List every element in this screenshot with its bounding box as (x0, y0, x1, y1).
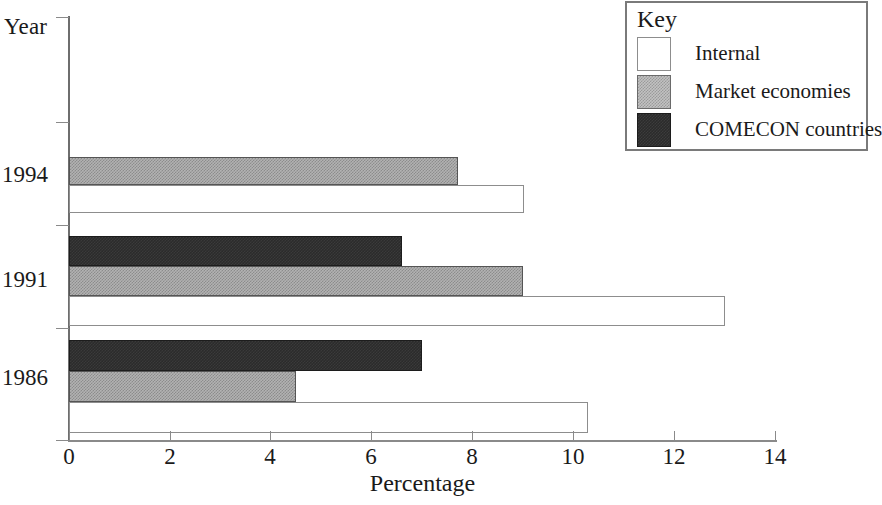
x-axis-label-14: 14 (753, 444, 797, 470)
x-axis-tick (674, 431, 675, 442)
x-axis-label-12: 12 (652, 444, 696, 470)
legend-swatch-comecon-countries-icon (637, 113, 671, 147)
x-axis-line (68, 440, 777, 442)
bar-1994-market-economies (69, 157, 458, 185)
y-axis-tick (56, 17, 69, 18)
legend-label-market-economies: Market economies (695, 78, 851, 104)
x-axis-tick (371, 431, 372, 442)
x-axis-label-8: 8 (450, 444, 494, 470)
x-axis-title: Percentage (68, 470, 777, 497)
legend-title: Key (637, 5, 677, 33)
legend-label-internal: Internal (695, 40, 760, 66)
bar-1991-internal (69, 296, 725, 326)
x-axis-label-4: 4 (248, 444, 292, 470)
x-axis-label-10: 10 (551, 444, 595, 470)
legend-label-comecon-countries: COMECON countries (695, 116, 882, 142)
bar-1986-market-economies (69, 371, 296, 402)
y-axis-tick (56, 225, 69, 226)
y-axis-tick (56, 122, 69, 123)
bar-1986-internal (69, 402, 588, 433)
bar-1991-comecon-countries (69, 236, 402, 266)
legend-swatch-internal-icon (637, 37, 671, 71)
legend: Key Internal Market economies COMECON co… (625, 1, 868, 151)
y-axis-label-1991: 1991 (2, 268, 60, 291)
x-axis-label-2: 2 (148, 444, 192, 470)
x-axis-tick (472, 431, 473, 442)
x-axis-tick (775, 431, 776, 442)
x-axis-tick (170, 431, 171, 442)
y-axis-tick (56, 328, 69, 329)
bar-1991-market-economies (69, 266, 523, 296)
legend-swatch-market-economies-icon (637, 75, 671, 109)
y-axis-tick (56, 440, 69, 441)
y-axis-label-1986: 1986 (2, 366, 60, 389)
x-axis-label-0: 0 (47, 444, 91, 470)
bar-1994-internal (69, 185, 524, 213)
y-axis-label-1994: 1994 (2, 163, 60, 186)
x-axis-tick (69, 431, 70, 442)
x-axis-tick (573, 431, 574, 442)
y-axis-title: Year (4, 14, 47, 40)
x-axis-label-6: 6 (349, 444, 393, 470)
x-axis-tick (270, 431, 271, 442)
bar-1986-comecon-countries (69, 340, 422, 371)
